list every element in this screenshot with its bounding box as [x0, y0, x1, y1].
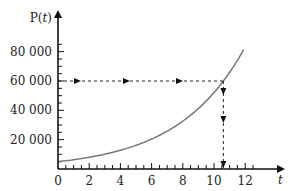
x-tick-label: 2 [85, 174, 93, 188]
arrow-down-icon [220, 116, 226, 123]
y-tick-label: 80 000 [10, 45, 52, 59]
plot-area [58, 50, 244, 169]
growth-curve [58, 50, 244, 162]
exponential-growth-chart: P(t) t 02468101220 00040 00060 00080 000 [0, 0, 292, 191]
x-tick-label: 4 [117, 174, 125, 188]
x-tick-label: 8 [179, 174, 187, 188]
y-tick-label: 60 000 [10, 74, 52, 88]
y-axis-label: P(t) [30, 11, 52, 25]
y-tick-label: 40 000 [10, 103, 52, 117]
x-axis-label: t [278, 173, 283, 187]
arrow-right-icon [74, 78, 81, 84]
arrow-right-icon [123, 78, 130, 84]
x-tick-label: 10 [206, 174, 221, 188]
x-tick-label: 6 [148, 174, 156, 188]
arrow-down-icon [220, 88, 226, 95]
arrow-right-icon [176, 78, 183, 84]
tick-labels: 02468101220 00040 00060 00080 000 [10, 45, 253, 188]
arrow-down-icon [220, 161, 226, 168]
x-tick-label: 0 [54, 174, 62, 188]
y-tick-label: 20 000 [10, 133, 52, 147]
x-tick-label: 12 [238, 174, 253, 188]
